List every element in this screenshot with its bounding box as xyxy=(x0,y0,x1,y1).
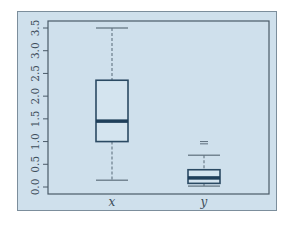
x-category-label: y xyxy=(200,195,208,209)
y-tick-label: 3.5 xyxy=(29,20,41,37)
y-tick-label: 2.0 xyxy=(29,88,41,105)
box-y xyxy=(188,142,220,187)
x-category-label: x xyxy=(109,195,116,209)
y-tick-label: 0.0 xyxy=(29,179,41,196)
box-x xyxy=(96,28,128,180)
y-tick-label: 2.5 xyxy=(29,65,41,82)
y-tick-label: 1.0 xyxy=(29,133,41,150)
y-tick-label: 0.5 xyxy=(29,156,41,173)
plot-area xyxy=(48,21,269,194)
y-tick-label: 3.0 xyxy=(29,42,41,59)
boxplot-chart: 0.00.51.01.52.02.53.03.5xy xyxy=(0,0,291,225)
iqr-box xyxy=(96,80,128,141)
y-tick-label: 1.5 xyxy=(29,111,41,128)
